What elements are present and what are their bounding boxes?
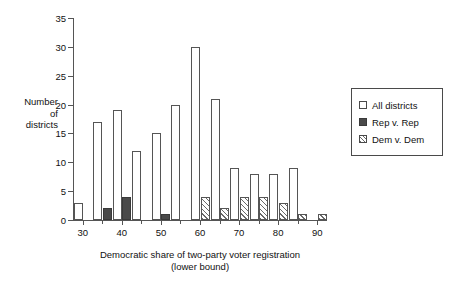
y-axis-title: Number of districts	[2, 96, 58, 131]
y-axis-tick-label: 10	[55, 157, 66, 168]
x-axis-tick-mark	[122, 221, 123, 225]
x-axis-tick-label: 70	[234, 227, 245, 238]
x-axis-tick-label: 40	[117, 227, 128, 238]
bar	[74, 203, 83, 220]
bar	[93, 122, 102, 220]
x-axis-tick-label: 80	[273, 227, 284, 238]
y-axis-tick-mark	[68, 18, 73, 19]
y-axis-tick-label: 0	[61, 215, 66, 226]
x-axis-tick-label: 90	[312, 227, 323, 238]
x-axis-tick-label: 50	[156, 227, 167, 238]
y-axis-line	[73, 18, 74, 221]
bar	[132, 151, 141, 220]
x-axis-tick-mark	[83, 221, 84, 225]
bar	[298, 214, 307, 220]
legend-label: All districts	[372, 100, 417, 111]
legend-swatch-all	[359, 101, 367, 109]
y-axis-tick-mark	[68, 162, 73, 163]
y-axis-tick-mark	[68, 105, 73, 106]
y-axis-tick-mark	[68, 76, 73, 77]
bar	[103, 208, 112, 220]
x-axis-tick-mark	[220, 221, 221, 224]
bar	[201, 197, 210, 220]
bar	[259, 197, 268, 220]
chart-legend: All districtsRep v. RepDem v. Dem	[351, 88, 443, 156]
y-axis-tick-mark	[68, 47, 73, 48]
x-axis-tick-mark	[239, 221, 240, 225]
x-axis-tick-mark	[161, 221, 162, 225]
x-axis-tick-mark	[278, 221, 279, 225]
x-axis-tick-mark	[141, 221, 142, 224]
bar-chart-figure: Number of districts 05101520253035 30405…	[0, 0, 449, 283]
y-axis-tick-label: 25	[55, 70, 66, 81]
x-axis-title-line-1: Democratic share of two-party voter regi…	[40, 249, 360, 261]
bar	[122, 197, 131, 220]
x-axis-tick-mark	[102, 221, 103, 224]
bar	[250, 174, 259, 220]
y-axis-title-line-3: districts	[2, 119, 58, 131]
bar	[289, 168, 298, 220]
x-axis-tick-mark	[180, 221, 181, 224]
y-axis-tick-label: 20	[55, 99, 66, 110]
bar	[240, 197, 249, 220]
legend-item-rep: Rep v. Rep	[359, 114, 437, 130]
x-axis-tick-mark	[200, 221, 201, 225]
bar	[211, 99, 220, 220]
y-axis-tick-label: 15	[55, 128, 66, 139]
y-axis-title-line-1: Number	[2, 96, 58, 108]
bar	[279, 203, 288, 220]
y-axis-tick-label: 35	[55, 13, 66, 24]
bar	[161, 214, 170, 220]
bar	[191, 47, 200, 220]
x-axis-tick-label: 30	[77, 227, 88, 238]
bar	[269, 174, 278, 220]
bar	[220, 208, 229, 220]
y-axis-tick-label: 5	[61, 186, 66, 197]
legend-item-all: All districts	[359, 97, 437, 113]
x-axis-tick-label: 60	[195, 227, 206, 238]
legend-swatch-rep	[359, 118, 367, 126]
bar	[171, 105, 180, 220]
legend-label: Rep v. Rep	[372, 117, 419, 128]
x-axis-title-line-2: (lower bound)	[40, 261, 360, 273]
y-axis-tick-mark	[68, 133, 73, 134]
x-axis-title: Democratic share of two-party voter regi…	[40, 249, 360, 273]
x-axis-tick-mark	[298, 221, 299, 224]
x-axis-tick-mark	[259, 221, 260, 224]
bar	[230, 168, 239, 220]
legend-swatch-dem	[359, 135, 367, 143]
y-axis-title-line-2: of	[2, 108, 58, 120]
plot-area: 05101520253035 30405060708090	[73, 18, 327, 221]
bar	[318, 214, 327, 220]
y-axis-tick-mark	[68, 191, 73, 192]
y-axis-tick-label: 30	[55, 41, 66, 52]
bar	[152, 133, 161, 220]
legend-label: Dem v. Dem	[372, 134, 424, 145]
x-axis-tick-mark	[317, 221, 318, 225]
legend-item-dem: Dem v. Dem	[359, 131, 437, 147]
y-axis-tick-mark	[68, 220, 73, 221]
bar	[113, 110, 122, 220]
